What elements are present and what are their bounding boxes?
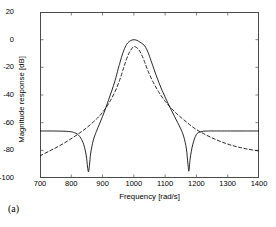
x-tick-label: 800 <box>65 180 78 188</box>
x-tick-label: 1200 <box>188 180 205 188</box>
y-axis-label: Magnitude response [dB] <box>17 35 26 165</box>
x-tick-label: 1300 <box>219 180 236 188</box>
curve-solid <box>40 40 259 172</box>
y-tick-label: -40 <box>3 91 14 99</box>
x-tick-label: 900 <box>96 180 109 188</box>
x-tick-label: 1400 <box>251 180 268 188</box>
x-tick-label: 1100 <box>157 180 173 188</box>
y-tick-label: -80 <box>3 146 14 154</box>
chart-curves <box>40 12 259 178</box>
plot-area <box>40 12 259 178</box>
figure: 70080090010001100120013001400200-20-40-6… <box>0 0 276 227</box>
y-tick-label: -60 <box>3 119 14 127</box>
figure-caption: (a) <box>8 203 19 214</box>
x-tick-label: 1000 <box>126 180 143 188</box>
y-tick-label: 20 <box>6 8 14 16</box>
curve-dashed <box>40 47 259 156</box>
x-axis-label: Frequency [rad/s] <box>40 192 259 201</box>
y-tick-label: 0 <box>10 36 14 44</box>
x-tick-label: 700 <box>34 180 47 188</box>
y-tick-label: -100 <box>0 174 14 182</box>
y-tick-label: -20 <box>3 63 14 71</box>
